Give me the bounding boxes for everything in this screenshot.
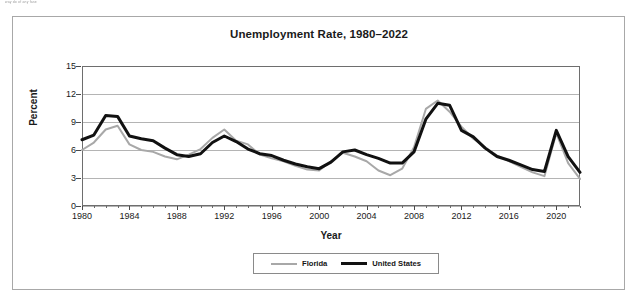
- x-tick-mark-minor: [295, 206, 296, 208]
- x-tick-label: 1980: [62, 211, 102, 221]
- x-tick-mark: [461, 206, 462, 210]
- x-tick-mark: [556, 206, 557, 210]
- x-tick-mark-minor: [165, 206, 166, 208]
- y-tick-label: 0: [58, 201, 76, 211]
- y-tick-label: 6: [58, 145, 76, 155]
- x-tick-label: 2004: [347, 211, 387, 221]
- y-axis-tick-labels: 03691215: [52, 66, 76, 206]
- x-tick-mark-minor: [212, 206, 213, 208]
- legend-label: United States: [372, 259, 421, 268]
- x-tick-mark-minor: [544, 206, 545, 208]
- x-tick-mark-minor: [378, 206, 379, 208]
- y-axis-title: Percent: [28, 73, 39, 143]
- x-tick-mark: [177, 206, 178, 210]
- legend-swatch: [341, 262, 367, 265]
- x-tick-label: 2016: [489, 211, 529, 221]
- chart-title: Unemployment Rate, 1980–2022: [0, 28, 638, 40]
- x-tick-mark-minor: [260, 206, 261, 208]
- x-tick-mark-minor: [355, 206, 356, 208]
- x-tick-mark-minor: [106, 206, 107, 208]
- x-axis-title: Year: [82, 230, 580, 241]
- series-line-florida: [82, 101, 580, 179]
- x-tick-mark-minor: [521, 206, 522, 208]
- x-tick-label: 1984: [109, 211, 149, 221]
- x-tick-mark-minor: [568, 206, 569, 208]
- x-tick-mark-minor: [473, 206, 474, 208]
- x-tick-mark-minor: [426, 206, 427, 208]
- x-tick-mark: [224, 206, 225, 210]
- x-tick-label: 2012: [441, 211, 481, 221]
- x-tick-mark: [414, 206, 415, 210]
- y-tick-label: 12: [58, 89, 76, 99]
- x-tick-mark: [129, 206, 130, 210]
- y-tick-mark: [76, 94, 81, 95]
- x-tick-mark-minor: [331, 206, 332, 208]
- y-tick-mark: [76, 66, 81, 67]
- x-tick-mark-minor: [248, 206, 249, 208]
- x-tick-mark-minor: [533, 206, 534, 208]
- y-tick-label: 9: [58, 117, 76, 127]
- x-tick-label: 2020: [536, 211, 576, 221]
- x-tick-mark: [319, 206, 320, 210]
- legend-label: Florida: [302, 259, 327, 268]
- plot-area: [82, 66, 580, 206]
- legend-entry-united-states[interactable]: United States: [341, 259, 421, 268]
- x-tick-mark-minor: [201, 206, 202, 208]
- x-tick-mark-minor: [402, 206, 403, 208]
- x-tick-mark: [82, 206, 83, 210]
- x-tick-mark-minor: [485, 206, 486, 208]
- x-tick-mark-minor: [438, 206, 439, 208]
- y-tick-mark: [76, 206, 81, 207]
- x-tick-mark-minor: [189, 206, 190, 208]
- x-tick-mark-minor: [497, 206, 498, 208]
- chart-lines: [82, 66, 580, 206]
- scan-artifact-text: way do of any fase: [5, 0, 65, 8]
- series-line-united-states: [82, 103, 580, 172]
- x-tick-mark-minor: [450, 206, 451, 208]
- legend-entry-florida[interactable]: Florida: [271, 259, 327, 268]
- x-tick-mark: [272, 206, 273, 210]
- x-tick-mark-minor: [153, 206, 154, 208]
- x-tick-label: 2008: [394, 211, 434, 221]
- x-tick-mark-minor: [390, 206, 391, 208]
- x-tick-mark: [367, 206, 368, 210]
- x-tick-mark-minor: [94, 206, 95, 208]
- x-tick-mark-minor: [236, 206, 237, 208]
- x-tick-mark-minor: [141, 206, 142, 208]
- chart-legend: FloridaUnited States: [253, 253, 439, 274]
- x-tick-mark-minor: [284, 206, 285, 208]
- x-tick-mark-minor: [307, 206, 308, 208]
- x-tick-mark-minor: [118, 206, 119, 208]
- x-tick-mark-minor: [343, 206, 344, 208]
- x-tick-label: 1992: [204, 211, 244, 221]
- y-tick-label: 3: [58, 173, 76, 183]
- y-tick-mark: [76, 178, 81, 179]
- x-tick-label: 1996: [252, 211, 292, 221]
- y-tick-mark: [76, 150, 81, 151]
- x-tick-label: 1988: [157, 211, 197, 221]
- x-tick-mark: [509, 206, 510, 210]
- legend-swatch: [271, 263, 297, 265]
- y-tick-mark: [76, 122, 81, 123]
- y-tick-label: 15: [58, 61, 76, 71]
- x-tick-label: 2000: [299, 211, 339, 221]
- x-tick-mark-minor: [580, 206, 581, 208]
